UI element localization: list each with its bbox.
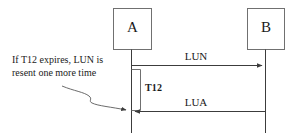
sequence-diagram-canvas: A B LUN LUA T12 If T12 expires, LUN is r… <box>0 0 295 133</box>
timer-label-t12: T12 <box>145 82 162 94</box>
actor-label-a: A <box>113 19 152 37</box>
message-label-lun: LUN <box>166 50 226 63</box>
actor-label-b: B <box>247 19 285 37</box>
note-line-1: If T12 expires, LUN is <box>12 54 112 66</box>
note-leader-curve <box>62 86 126 110</box>
note-line-2: resent one more time <box>12 67 112 79</box>
message-label-lua: LUA <box>166 96 226 109</box>
